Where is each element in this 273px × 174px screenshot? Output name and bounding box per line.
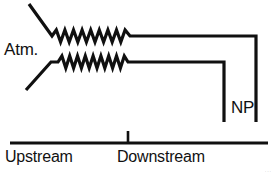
downstream-region-label: Downstream — [117, 149, 205, 165]
upstream-region-label: Upstream — [5, 149, 73, 165]
lower-trace-path — [26, 56, 224, 122]
corner-microtext: - - - — [265, 170, 271, 173]
pressure-trace-diagram: Atm. NP Upstream Downstream - - - — [0, 0, 273, 174]
atmospheric-pressure-label: Atm. — [4, 41, 38, 58]
np-label: NP — [231, 99, 254, 116]
